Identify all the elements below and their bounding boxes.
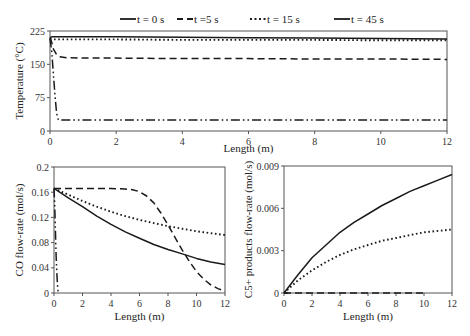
- y-tick-label: 75: [35, 92, 45, 103]
- y-tick-label: 0.006: [257, 203, 280, 214]
- series-line-dashed: [50, 38, 447, 60]
- y-tick-label: 0.16: [32, 187, 50, 198]
- x-tick-label: 8: [166, 298, 171, 309]
- x-tick-label: 0: [52, 298, 57, 309]
- x-tick-label: 10: [376, 136, 386, 147]
- temperature-chart: 024681012075150225Length (m)Temperature …: [13, 26, 452, 156]
- series-line-dashed: [54, 188, 225, 291]
- y-tick-label: 0.003: [257, 245, 280, 256]
- y-tick-label: 150: [30, 59, 45, 70]
- y-tick-label: 0.009: [257, 161, 280, 172]
- y-tick-label: 0: [44, 288, 49, 299]
- y-axis-title: CO flow-rate (mol/s): [13, 183, 26, 276]
- x-tick-label: 6: [137, 298, 142, 309]
- x-axis-title: Length (m): [343, 310, 393, 323]
- x-tick-label: 4: [338, 298, 343, 309]
- y-tick-label: 0: [40, 126, 45, 137]
- x-tick-label: 12: [220, 298, 230, 309]
- x-tick-label: 4: [109, 298, 114, 309]
- y-axis-title: C5+ products flow-rate (mol/s): [242, 161, 255, 299]
- y-tick-label: 0: [274, 288, 279, 299]
- series-line-dashdot: [50, 39, 447, 120]
- x-tick-label: 10: [192, 298, 202, 309]
- x-axis-title: Length (m): [224, 142, 274, 155]
- y-axis-title: Temperature (°C): [13, 42, 26, 120]
- c5-products-flow-rate-chart: 02468101200.0030.0060.009Length (m)C5+ p…: [242, 161, 457, 324]
- co-flow-rate-chart: 02468101200.040.080.120.160.2Length (m)C…: [13, 162, 230, 324]
- series-line-dashdot: [54, 188, 58, 293]
- x-tick-label: 12: [442, 136, 452, 147]
- x-tick-label: 0: [282, 298, 287, 309]
- x-tick-label: 12: [447, 298, 457, 309]
- figure-canvas: 024681012075150225Length (m)Temperature …: [0, 0, 470, 336]
- plot-frame: [50, 31, 447, 131]
- y-tick-label: 0.2: [37, 162, 50, 173]
- x-tick-label: 8: [312, 136, 317, 147]
- y-tick-label: 0.08: [32, 237, 50, 248]
- y-tick-label: 0.12: [32, 212, 50, 223]
- x-tick-label: 10: [419, 298, 429, 309]
- x-axis-title: Length (m): [115, 310, 165, 323]
- x-tick-label: 6: [366, 298, 371, 309]
- x-tick-label: 2: [310, 298, 315, 309]
- x-tick-label: 8: [394, 298, 399, 309]
- y-tick-label: 0.04: [32, 262, 50, 273]
- x-tick-label: 2: [80, 298, 85, 309]
- x-tick-label: 4: [180, 136, 185, 147]
- y-tick-label: 225: [30, 26, 45, 37]
- series-line-dotted: [54, 188, 225, 235]
- series-line-solid: [284, 175, 452, 294]
- x-tick-label: 2: [114, 136, 119, 147]
- series-line-solid: [54, 188, 225, 264]
- x-tick-label: 0: [48, 136, 53, 147]
